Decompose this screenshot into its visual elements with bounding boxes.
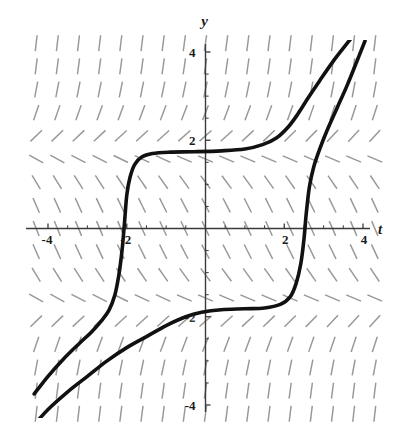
y-axis-name: y bbox=[199, 13, 208, 29]
t-tick-label-neg2: -2 bbox=[120, 232, 131, 247]
slope-field-chart: -4-224-424-2yt bbox=[0, 0, 412, 430]
t-tick-label-neg4: -4 bbox=[42, 232, 53, 247]
t-tick-label-4: 4 bbox=[361, 232, 368, 247]
direction-field-figure: -4-224-424-2yt bbox=[0, 0, 412, 430]
y-tick-label-neg2-obscured: -2 bbox=[185, 310, 196, 325]
t-tick-label-2: 2 bbox=[282, 232, 289, 247]
y-tick-label-2: 2 bbox=[189, 133, 196, 148]
y-tick-label-4: 4 bbox=[189, 45, 196, 60]
y-tick-label-neg4: -4 bbox=[185, 398, 196, 413]
